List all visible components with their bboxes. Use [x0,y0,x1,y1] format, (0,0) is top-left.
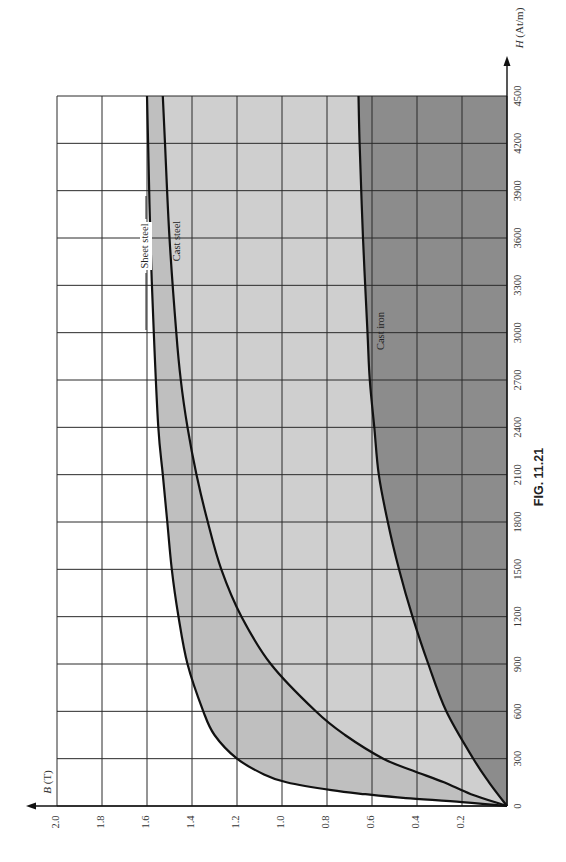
h-tick-label: 1200 [512,606,523,627]
b-tick-label: 0.4 [410,815,421,829]
b-tick-label: 0.8 [320,815,331,828]
h-tick-label: 4200 [512,133,523,154]
b-tick-label: 1.2 [230,815,241,828]
figure-caption: FIG. 11.21 [532,448,546,506]
b-tick-label: 1.0 [275,815,286,828]
b-tick-label: 2.0 [50,815,61,828]
h-tick-label: 3600 [512,228,523,249]
h-tick-label: 3900 [512,180,523,201]
h-axis-title: H (At/m) [513,7,526,49]
h-tick-label: 2400 [512,417,523,438]
h-tick-label: 300 [512,751,523,767]
h-tick-label: 1500 [512,559,523,580]
h-tick-label: 900 [512,656,523,672]
b-axis-arrow-icon [26,803,36,810]
sheet-steel-label: Sheet steel [139,223,150,268]
h-tick-label: 0 [512,803,523,808]
h-tick-label: 3000 [512,322,523,343]
b-tick-label: 1.8 [95,815,106,828]
bh-curve-chart: 0300600900120015001800210024002700300033… [0,0,566,862]
b-tick-label: 1.4 [185,815,196,829]
h-axis-arrow-icon [504,56,511,66]
h-tick-label: 600 [512,703,523,719]
h-tick-label: 3300 [512,275,523,296]
h-tick-label: 2700 [512,370,523,391]
b-tick-label: 0.2 [455,815,466,828]
cast-steel-label: Cast steel [171,221,182,262]
b-axis-title: B (T) [41,770,54,794]
h-tick-label: 1800 [512,512,523,533]
h-tick-label: 2100 [512,464,523,485]
b-tick-label: 0.6 [365,815,376,828]
b-tick-label: 1.6 [140,815,151,828]
h-tick-label: 4500 [512,86,523,107]
cast-iron-label: Cast iron [375,311,386,350]
